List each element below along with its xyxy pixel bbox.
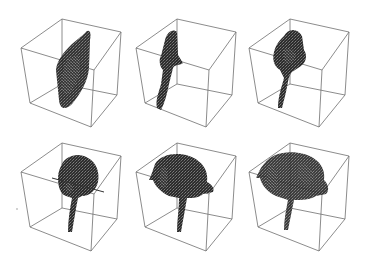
volume-shape [156, 30, 183, 110]
volume-shape [256, 152, 328, 230]
stray-dot [16, 208, 18, 210]
panel-5 [136, 143, 236, 251]
panel-3 [249, 19, 349, 127]
volume-shape [273, 30, 306, 108]
panel-2 [136, 19, 236, 127]
volume-render-grid [0, 0, 365, 265]
panel-6 [249, 143, 349, 251]
volume-shape [149, 154, 214, 232]
panel-1 [21, 19, 121, 127]
figure-canvas [0, 0, 365, 265]
wireframe-box [136, 19, 236, 127]
panel-4 [21, 143, 121, 251]
